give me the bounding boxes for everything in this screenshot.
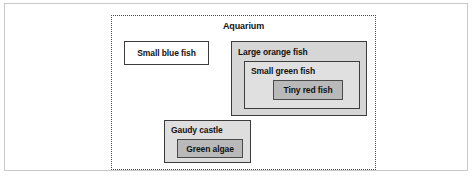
box-gaudy-castle: Gaudy castle Green algae (164, 120, 251, 163)
container-aquarium-label: Aquarium (112, 21, 375, 31)
container-aquarium: Aquarium Small blue fish Large orange fi… (111, 15, 376, 170)
box-small-green-fish: Small green fish Tiny red fish (244, 61, 360, 109)
box-tiny-red-fish: Tiny red fish (273, 80, 343, 100)
box-small-blue-fish: Small blue fish (124, 41, 209, 65)
box-gaudy-castle-label: Gaudy castle (171, 125, 223, 135)
box-large-orange-fish: Large orange fish Small green fish Tiny … (231, 41, 367, 116)
figure-frame: Aquarium Small blue fish Large orange fi… (4, 3, 468, 171)
box-green-algae-label: Green algae (186, 144, 234, 154)
box-green-algae: Green algae (177, 139, 243, 158)
box-large-orange-fish-label: Large orange fish (238, 47, 308, 57)
box-small-blue-fish-label: Small blue fish (137, 48, 196, 58)
box-tiny-red-fish-label: Tiny red fish (283, 85, 332, 95)
box-small-green-fish-label: Small green fish (251, 66, 315, 76)
diagram-canvas: Aquarium Small blue fish Large orange fi… (0, 0, 475, 181)
